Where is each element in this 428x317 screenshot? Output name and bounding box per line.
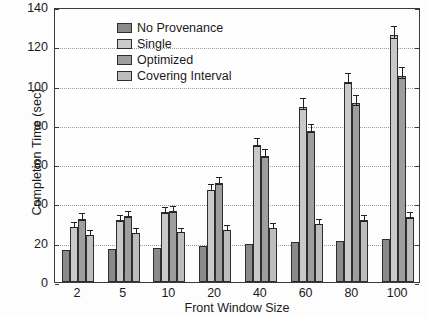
error-bar-cap (353, 95, 359, 96)
error-bar-cap (224, 230, 230, 231)
y-axis-tick-label: 0 (18, 276, 48, 290)
x-axis-tick-mark (78, 278, 79, 282)
error-bar-cap (300, 109, 306, 110)
bar (360, 220, 368, 282)
error-bar-cap (254, 138, 260, 139)
bar (390, 35, 398, 282)
legend-color-swatch (117, 55, 132, 65)
error-bar-cap (399, 78, 405, 79)
bar (86, 235, 94, 282)
x-axis-tick-label: 10 (148, 286, 188, 300)
error-bar-cap (270, 223, 276, 224)
error-bar-cap (79, 220, 85, 221)
bar (132, 233, 140, 282)
error-bar-cap (133, 233, 139, 234)
bar (261, 156, 269, 282)
y-axis-tick-label: 120 (18, 40, 48, 54)
legend-item: Covering Interval (117, 68, 232, 84)
error-bar-cap (117, 221, 123, 222)
error-bar-cap (224, 225, 230, 226)
bar-group (291, 9, 323, 282)
error-bar-cap (361, 221, 367, 222)
error-bar-cap (300, 98, 306, 99)
error-bar-cap (407, 212, 413, 213)
error-bar-cap (345, 73, 351, 74)
x-axis-title: Front Window Size (54, 301, 420, 315)
x-axis-tick-mark (398, 278, 399, 282)
error-bar-cap (216, 177, 222, 178)
error-bar-cap (316, 219, 322, 220)
error-bar-cap (308, 132, 314, 133)
error-bar-cap (178, 232, 184, 233)
bar (307, 131, 315, 282)
error-bar-cap (162, 207, 168, 208)
bar (291, 242, 299, 282)
y-axis-tick-label: 20 (18, 237, 48, 251)
x-axis-tick-label: 80 (331, 286, 371, 300)
error-bar-cap (170, 206, 176, 207)
bar (207, 190, 215, 282)
legend-color-swatch (117, 39, 132, 49)
x-axis-tick-mark (261, 278, 262, 282)
error-bar-cap (79, 213, 85, 214)
bar-group (62, 9, 94, 282)
x-axis-tick-label: 40 (240, 286, 280, 300)
bar (153, 248, 161, 282)
bar-group (336, 9, 368, 282)
x-axis-tick-label: 2 (57, 286, 97, 300)
error-bar-cap (170, 212, 176, 213)
x-axis-tick-mark (124, 278, 125, 282)
error-bar-cap (87, 230, 93, 231)
x-axis-tick-mark (169, 278, 170, 282)
error-bar-cap (391, 38, 397, 39)
error-bar-cap (262, 149, 268, 150)
bar-chart-figure: Completion Time (sec) 020406080100120140… (0, 0, 428, 317)
error-bar-cap (399, 67, 405, 68)
bar (398, 76, 406, 282)
y-axis-tick-mark (415, 284, 419, 285)
legend-item: No Provenance (117, 20, 232, 36)
bar (245, 244, 253, 282)
bar (253, 145, 261, 283)
y-axis-tick-label: 60 (18, 158, 48, 172)
bar (70, 227, 78, 282)
error-bar-cap (125, 217, 131, 218)
legend-label: No Provenance (137, 22, 223, 35)
y-axis-tick-label: 80 (18, 119, 48, 133)
y-axis-tick-label: 140 (18, 1, 48, 15)
error-bar-cap (71, 227, 77, 228)
bar (352, 103, 360, 282)
x-axis-tick-label: 100 (377, 286, 417, 300)
bar (315, 224, 323, 282)
error-bar-cap (345, 83, 351, 84)
bar (161, 212, 169, 282)
legend-label: Single (137, 38, 172, 51)
error-bar-cap (178, 228, 184, 229)
y-axis-tick-label: 100 (18, 80, 48, 94)
error-bar-cap (353, 105, 359, 106)
bar (199, 246, 207, 282)
error-bar-cap (391, 26, 397, 27)
x-axis-tick-labels: 251020406080100 (54, 286, 420, 302)
legend: No ProvenanceSingleOptimizedCovering Int… (115, 19, 234, 85)
legend-label: Optimized (137, 54, 193, 67)
bar (177, 232, 185, 282)
error-bar-cap (407, 218, 413, 219)
x-axis-tick-label: 20 (194, 286, 234, 300)
legend-item: Optimized (117, 52, 232, 68)
bar (78, 219, 86, 282)
x-axis-tick-mark (307, 278, 308, 282)
error-bar-cap (254, 146, 260, 147)
error-bar-cap (316, 224, 322, 225)
error-bar-cap (262, 157, 268, 158)
bar (299, 107, 307, 282)
error-bar-cap (162, 213, 168, 214)
error-bar-cap (125, 211, 131, 212)
error-bar-cap (133, 228, 139, 229)
x-axis-tick-label: 60 (286, 286, 326, 300)
error-bar-cap (208, 190, 214, 191)
error-bar-cap (270, 228, 276, 229)
bar (382, 239, 390, 282)
error-bar-cap (208, 184, 214, 185)
bar (223, 230, 231, 282)
